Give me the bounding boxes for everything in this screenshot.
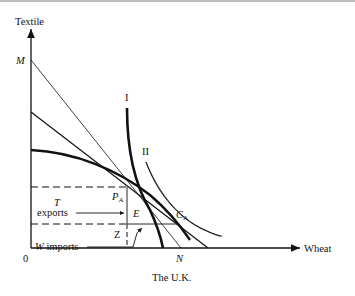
point-n-label: N [175, 253, 184, 264]
curve-2-label: II [142, 146, 149, 157]
figure-caption: The U.K. [152, 272, 191, 283]
point-z-label: Z [114, 229, 120, 240]
price-line-mn [31, 60, 181, 248]
point-ca-label: CA [176, 209, 188, 222]
indifference-curve-1 [127, 108, 163, 248]
point-e-label: E [132, 208, 140, 219]
y-axis-label: Textile [15, 16, 44, 27]
curve-1-label: I [125, 92, 129, 103]
point-m-label: M [15, 55, 26, 66]
x-axis-label: Wheat [304, 243, 331, 254]
production-possibility-frontier [31, 150, 190, 240]
origin-label: 0 [23, 253, 28, 264]
trade-diagram: Textile Wheat 0 M N I II PA E CA Z T exp… [0, 0, 355, 296]
point-pa-label: PA [111, 191, 123, 204]
imports-label: W imports [35, 241, 78, 252]
exports-label: exports [37, 207, 68, 218]
